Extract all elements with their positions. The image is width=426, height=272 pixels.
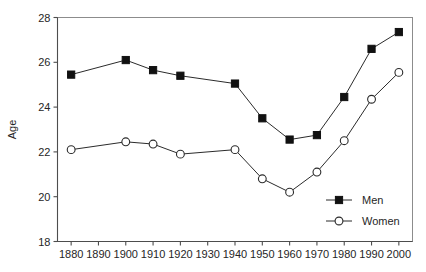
data-point-women xyxy=(395,68,403,76)
data-point-women xyxy=(286,188,294,196)
data-point-men xyxy=(122,56,129,63)
x-tick-label: 1910 xyxy=(141,248,165,260)
series-line-women xyxy=(71,72,399,192)
data-point-women xyxy=(368,95,376,103)
x-tick-label: 1890 xyxy=(86,248,110,260)
legend-label-women: Women xyxy=(362,215,400,227)
x-tick-label: 1950 xyxy=(250,248,274,260)
data-point-women xyxy=(313,168,321,176)
chart-figure: 182022242628Age1880189019001910192019301… xyxy=(0,0,426,272)
data-point-men xyxy=(286,136,293,143)
x-tick-label: 1970 xyxy=(305,248,329,260)
data-point-men xyxy=(395,28,402,35)
series-men xyxy=(68,28,403,143)
y-axis-title: Age xyxy=(6,120,18,140)
data-point-women xyxy=(231,146,239,154)
y-tick-label: 18 xyxy=(38,236,50,248)
x-axis: 1880189019001910192019301940195019601970… xyxy=(59,242,411,260)
x-tick-label: 1930 xyxy=(195,248,219,260)
data-point-men xyxy=(313,132,320,139)
x-tick-label: 1940 xyxy=(223,248,247,260)
data-point-women xyxy=(176,150,184,158)
line-chart: 182022242628Age1880189019001910192019301… xyxy=(0,0,426,272)
x-tick-label: 1880 xyxy=(59,248,83,260)
data-point-men xyxy=(149,67,156,74)
x-tick-label: 1900 xyxy=(114,248,138,260)
x-tick-label: 2000 xyxy=(387,248,411,260)
x-tick-label: 1980 xyxy=(332,248,356,260)
data-point-women xyxy=(67,146,75,154)
data-point-women xyxy=(122,138,130,146)
legend-marker-women xyxy=(335,217,343,225)
x-tick-label: 1920 xyxy=(168,248,192,260)
data-point-men xyxy=(231,80,238,87)
data-point-men xyxy=(68,71,75,78)
data-point-women xyxy=(340,137,348,145)
plot-axes xyxy=(58,18,413,242)
y-tick-label: 24 xyxy=(38,101,50,113)
data-point-men xyxy=(177,72,184,79)
x-tick-label: 1990 xyxy=(359,248,383,260)
y-axis: 182022242628 xyxy=(38,12,57,248)
data-point-women xyxy=(258,175,266,183)
legend: MenWomen xyxy=(326,194,400,227)
y-tick-label: 20 xyxy=(38,191,50,203)
y-tick-label: 26 xyxy=(38,56,50,68)
legend-marker-men xyxy=(335,196,342,203)
legend-label-men: Men xyxy=(362,194,383,206)
plot-frame xyxy=(58,18,413,242)
data-point-women xyxy=(149,140,157,148)
y-tick-label: 22 xyxy=(38,146,50,158)
data-point-men xyxy=(368,45,375,52)
data-point-men xyxy=(259,115,266,122)
x-tick-label: 1960 xyxy=(277,248,301,260)
data-point-men xyxy=(341,93,348,100)
y-tick-label: 28 xyxy=(38,12,50,24)
